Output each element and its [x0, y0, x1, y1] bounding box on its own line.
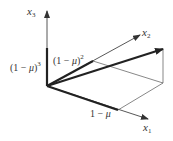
x2-comp-power: 2 [80, 53, 84, 61]
x2-component-label: (1 − μ)2 [53, 54, 84, 66]
x1-comp-text: 1 − [90, 108, 106, 119]
x1-label-sub: 1 [148, 127, 152, 135]
x2-axis-label: x2 [142, 27, 150, 40]
x1-component-vector [47, 86, 118, 110]
x3-comp-power: 3 [37, 60, 41, 68]
x2-label-sub: 2 [147, 32, 151, 40]
x3-axis-label: x3 [27, 6, 35, 19]
x2-comp-text: (1 − [53, 55, 72, 66]
construction-line-x2-to-corner [93, 61, 163, 83]
x3-comp-text: (1 − [10, 62, 29, 73]
mu-symbol: μ [106, 108, 111, 119]
x3-label-sub: 3 [32, 11, 36, 19]
x1-axis-label: x1 [143, 122, 151, 135]
construction-line-x1-to-corner [118, 83, 163, 110]
x1-component-label: 1 − μ [90, 109, 111, 119]
x3-component-label: (1 − μ)3 [10, 61, 41, 73]
